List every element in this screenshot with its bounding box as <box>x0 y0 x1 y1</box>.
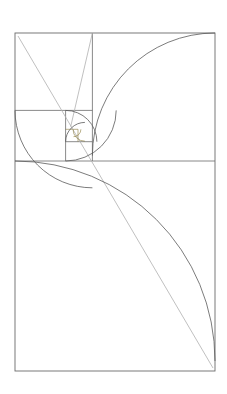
arc-1 <box>15 161 215 361</box>
arc-7 <box>73 129 85 141</box>
diagonal-secondary <box>71 33 93 127</box>
square-divider-lines-layer <box>15 33 215 161</box>
arc-2 <box>92 33 215 156</box>
arc-6 <box>66 122 85 141</box>
fibonacci-spiral-figure <box>0 0 227 394</box>
diagonal-main <box>18 36 213 368</box>
fibonacci-diagram-canvas <box>0 0 227 394</box>
arc-4 <box>66 110 117 161</box>
arc-3 <box>15 110 92 187</box>
